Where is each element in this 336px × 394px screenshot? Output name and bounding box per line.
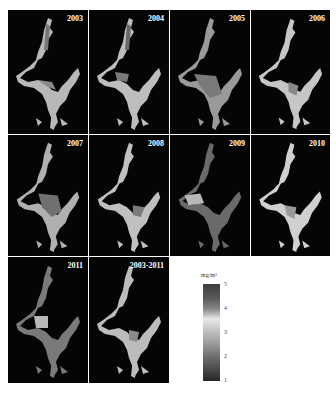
colorbar-tick: 5 bbox=[224, 281, 227, 287]
year-label: 2009 bbox=[229, 139, 245, 148]
lake-map bbox=[89, 135, 169, 256]
map-panel-2007: 2007 bbox=[8, 135, 88, 256]
lake-map bbox=[89, 10, 169, 134]
year-label: 2003 bbox=[67, 14, 83, 23]
colorbar bbox=[203, 284, 220, 381]
map-panel-2011: 2011 bbox=[8, 257, 88, 383]
lake-map bbox=[8, 10, 88, 134]
map-panel-2003-2011: 2003-2011 bbox=[89, 257, 169, 383]
lake-map bbox=[8, 257, 88, 383]
lake-map bbox=[170, 135, 250, 256]
colorbar-unit: mg/m³ bbox=[201, 272, 217, 278]
colorbar-tick: 2 bbox=[224, 353, 227, 359]
year-label: 2003-2011 bbox=[130, 261, 164, 270]
lake-map bbox=[89, 257, 169, 383]
year-label: 2011 bbox=[67, 261, 83, 270]
map-panel-2006: 2006 bbox=[251, 10, 330, 134]
map-panel-2009: 2009 bbox=[170, 135, 250, 256]
map-panel-2010: 2010 bbox=[251, 135, 330, 256]
year-label: 2006 bbox=[309, 14, 325, 23]
year-label: 2004 bbox=[148, 14, 164, 23]
year-label: 2008 bbox=[148, 139, 164, 148]
map-panel-2005: 2005 bbox=[170, 10, 250, 134]
colorbar-tick: 3 bbox=[224, 329, 227, 335]
year-label: 2007 bbox=[67, 139, 83, 148]
lake-map bbox=[251, 10, 330, 134]
map-panel-2004: 2004 bbox=[89, 10, 169, 134]
colorbar-tick: 4 bbox=[224, 305, 227, 311]
year-label: 2010 bbox=[309, 139, 325, 148]
map-panel-2008: 2008 bbox=[89, 135, 169, 256]
lake-map bbox=[251, 135, 330, 256]
map-panel-2003: 2003 bbox=[8, 10, 88, 134]
lake-map bbox=[8, 135, 88, 256]
lake-map bbox=[170, 10, 250, 134]
colorbar-tick: 1 bbox=[224, 377, 227, 383]
year-label: 2005 bbox=[229, 14, 245, 23]
